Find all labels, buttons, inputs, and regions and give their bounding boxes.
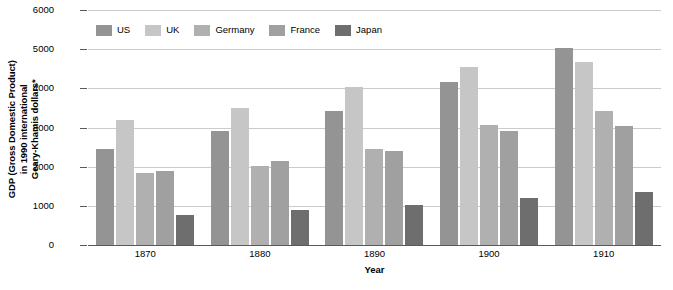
bar-germany-1880[interactable] — [251, 166, 269, 245]
y-tick-label-0: 0 — [6, 240, 54, 250]
bar-japan-1900[interactable] — [520, 198, 538, 245]
bar-france-1890[interactable] — [385, 151, 403, 245]
legend-label-germany: Germany — [215, 25, 254, 35]
y-tick-label-4000: 4000 — [6, 83, 54, 93]
legend-item-us[interactable]: US — [96, 25, 130, 36]
gdp-bar-chart: GDP (Gross Domestic Product) in 1990 int… — [0, 0, 673, 290]
bar-us-1880[interactable] — [211, 131, 229, 245]
bar-germany-1900[interactable] — [480, 125, 498, 245]
y-tick-label-2000: 2000 — [6, 162, 54, 172]
x-axis-tick-labels: 18701880189019001910 — [88, 249, 661, 259]
y-tick-mark-3000 — [80, 128, 87, 129]
legend-item-france[interactable]: France — [269, 25, 320, 36]
y-tick-label-1000: 1000 — [6, 201, 54, 211]
legend-item-germany[interactable]: Germany — [194, 25, 254, 36]
bar-japan-1910[interactable] — [635, 192, 653, 245]
bar-group-1870 — [88, 10, 203, 245]
y-tick-label-5000: 5000 — [6, 44, 54, 54]
bar-japan-1870[interactable] — [176, 215, 194, 245]
y-tick-mark-2000 — [80, 167, 87, 168]
bar-group-1880 — [203, 10, 318, 245]
bar-france-1910[interactable] — [615, 126, 633, 245]
bar-uk-1870[interactable] — [116, 120, 134, 245]
bar-uk-1890[interactable] — [345, 87, 363, 245]
legend-swatch-germany — [194, 25, 210, 36]
x-tick-label-1900: 1900 — [432, 249, 547, 259]
bar-group-1890 — [317, 10, 432, 245]
bar-uk-1900[interactable] — [460, 67, 478, 245]
legend-label-uk: UK — [166, 25, 179, 35]
bar-us-1910[interactable] — [555, 48, 573, 245]
bar-france-1870[interactable] — [156, 171, 174, 245]
bar-group-1910 — [546, 10, 661, 245]
y-tick-mark-4000 — [80, 88, 87, 89]
x-tick-label-1910: 1910 — [546, 249, 661, 259]
y-tick-label-3000: 3000 — [6, 123, 54, 133]
bar-uk-1910[interactable] — [575, 62, 593, 245]
x-tick-label-1880: 1880 — [203, 249, 318, 259]
legend-label-us: US — [117, 25, 130, 35]
x-tick-label-1870: 1870 — [88, 249, 203, 259]
legend-swatch-uk — [145, 25, 161, 36]
y-tick-mark-1000 — [80, 206, 87, 207]
legend-label-japan: Japan — [356, 25, 382, 35]
x-tick-label-1890: 1890 — [317, 249, 432, 259]
legend-item-uk[interactable]: UK — [145, 25, 179, 36]
legend-item-japan[interactable]: Japan — [335, 25, 382, 36]
bar-us-1870[interactable] — [96, 149, 114, 245]
bar-group-1900 — [432, 10, 547, 245]
legend-label-france: France — [290, 25, 320, 35]
y-tick-label-6000: 6000 — [6, 5, 54, 15]
bar-groups — [88, 10, 661, 245]
legend-swatch-france — [269, 25, 285, 36]
bar-germany-1910[interactable] — [595, 111, 613, 245]
bar-japan-1880[interactable] — [291, 210, 309, 245]
chart-legend: USUKGermanyFranceJapan — [96, 23, 382, 37]
y-tick-mark-6000 — [80, 10, 87, 11]
bar-germany-1870[interactable] — [136, 173, 154, 245]
bar-japan-1890[interactable] — [405, 205, 423, 245]
bar-germany-1890[interactable] — [365, 149, 383, 245]
bar-us-1900[interactable] — [440, 82, 458, 245]
bar-us-1890[interactable] — [325, 111, 343, 245]
x-axis-title: Year — [88, 264, 661, 275]
legend-swatch-japan — [335, 25, 351, 36]
gridline-0 — [88, 245, 661, 246]
bar-france-1880[interactable] — [271, 161, 289, 245]
bar-uk-1880[interactable] — [231, 108, 249, 245]
bar-france-1900[interactable] — [500, 131, 518, 245]
y-tick-mark-5000 — [80, 49, 87, 50]
legend-swatch-us — [96, 25, 112, 36]
y-tick-mark-0 — [80, 245, 87, 246]
